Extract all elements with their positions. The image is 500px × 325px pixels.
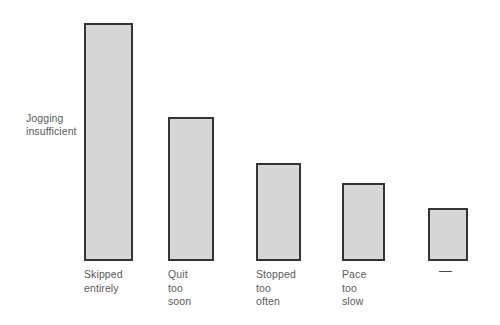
category-label-quit-too-soon: Quit too soon [168, 268, 191, 309]
category-label-pace-too-slow: Pace too slow [342, 268, 366, 309]
bar-pace-too-slow[interactable] [342, 183, 385, 261]
bar-quit-too-soon[interactable] [168, 117, 214, 261]
bar-unlabeled[interactable] [428, 208, 468, 261]
bar-skipped-entirely[interactable] [84, 23, 133, 261]
bar-stopped-too-often[interactable] [256, 163, 301, 261]
plot-area: Jogging insufficient Skipped entirely Qu… [0, 0, 500, 325]
category-label-unlabeled: — [439, 264, 452, 278]
category-label-stopped-too-often: Stopped too often [256, 268, 296, 309]
y-axis-caption: Jogging insufficient [26, 112, 84, 138]
bar-chart: Jogging insufficient Skipped entirely Qu… [0, 0, 500, 325]
category-label-skipped-entirely: Skipped entirely [84, 268, 123, 295]
